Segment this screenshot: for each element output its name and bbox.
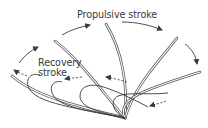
arrow-solid-1: [19, 47, 38, 63]
arrow-dashed-1: [14, 70, 27, 76]
recovery-label-line2: stroke: [38, 68, 82, 78]
recovery-cilium-1: [28, 74, 125, 118]
arrow-solid-3: [122, 22, 162, 30]
arrow-solid-4: [185, 44, 197, 64]
propulsive-stroke-label: Propulsive stroke: [77, 10, 157, 20]
cilium-3: [106, 24, 126, 118]
cilium-2: [55, 41, 125, 118]
recovery-stroke-label: Recovery stroke: [38, 58, 82, 78]
arrow-dashed-4: [150, 101, 166, 106]
arrow-solid-2: [62, 25, 90, 35]
cilium-5: [123, 72, 200, 118]
